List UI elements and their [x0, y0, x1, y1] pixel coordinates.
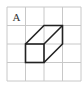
cuboid-top-right-edge — [44, 26, 63, 45]
point-label-a: A — [13, 11, 21, 23]
grid-diagram: A — [0, 0, 82, 85]
cuboid-front-face — [26, 44, 45, 63]
